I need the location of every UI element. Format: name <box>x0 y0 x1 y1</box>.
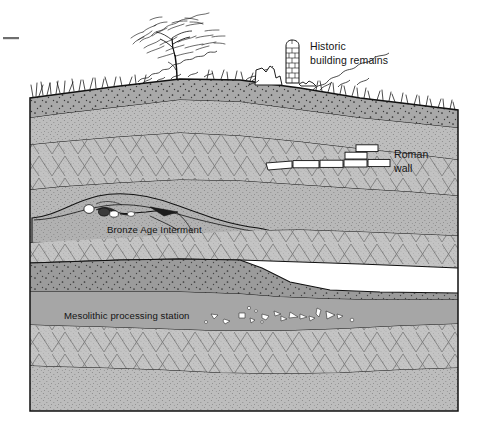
strata-stack <box>30 79 458 411</box>
stratigraphy-figure: Historic building remains Roman wall Bro… <box>0 0 480 434</box>
label-mesolithic-processing-station: Mesolithic processing station <box>64 310 190 321</box>
stratum-gravel-lower <box>30 324 458 374</box>
historic-building-remains-ruin <box>248 40 316 86</box>
corner-tick-mark <box>3 37 19 39</box>
section-drawing: Historic building remains Roman wall Bro… <box>0 0 480 434</box>
label-historic-building-remains: Historic building remains <box>310 40 388 66</box>
label-line-2: wall <box>393 162 413 174</box>
label-bronze-age-interment: Bronze Age Interment <box>107 224 202 235</box>
label-line-1: Roman <box>394 148 428 160</box>
label-line-1: Historic <box>310 40 346 52</box>
label-line-2: building remains <box>310 54 388 66</box>
tree <box>131 13 225 80</box>
